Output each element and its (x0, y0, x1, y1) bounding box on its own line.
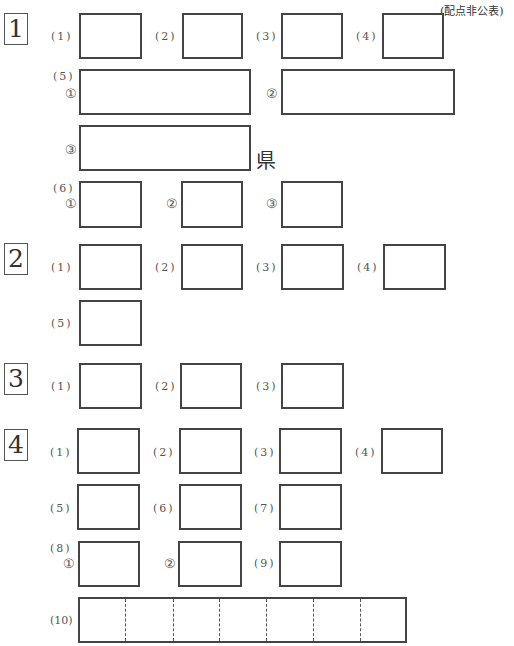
label-2-4: (4) (357, 261, 379, 274)
label-4-2: (2) (153, 446, 175, 459)
cell-divider (360, 599, 361, 641)
label-4-1: (1) (50, 446, 72, 459)
label-1-5: (5) (53, 70, 75, 83)
score-note: (配点非公表) (440, 2, 504, 18)
label-4-4: (4) (355, 446, 377, 459)
answer-box-4-8-1[interactable] (78, 541, 140, 587)
answer-box-1-3[interactable] (281, 13, 343, 59)
label-1-6-3: ③ (266, 196, 278, 211)
cell-divider (125, 599, 126, 641)
label-3-3: (3) (256, 380, 278, 393)
answer-box-4-1[interactable] (77, 428, 140, 474)
answer-box-3-3[interactable] (281, 363, 344, 409)
answer-box-1-6-2[interactable] (181, 181, 243, 228)
answer-box-1-2[interactable] (182, 13, 243, 59)
answer-box-4-3[interactable] (279, 428, 342, 474)
answer-box-1-6-3[interactable] (281, 181, 343, 228)
answer-box-4-9[interactable] (279, 541, 342, 587)
label-4-3: (3) (254, 446, 276, 459)
answer-grid-4-10[interactable] (78, 597, 407, 643)
label-4-8-2: ② (164, 556, 176, 571)
label-2-1: (1) (51, 261, 73, 274)
answer-box-4-2[interactable] (179, 428, 242, 474)
answer-box-1-1[interactable] (79, 13, 142, 59)
prefecture-suffix: 県 (256, 145, 276, 174)
answer-box-2-4[interactable] (383, 244, 446, 290)
answer-box-4-4[interactable] (381, 428, 443, 474)
label-4-5: (5) (50, 502, 72, 515)
label-2-2: (2) (155, 261, 177, 274)
section-number-3: 3 (4, 363, 28, 395)
label-2-3: (3) (256, 261, 278, 274)
label-1-5-2: ② (266, 86, 278, 101)
label-2-5: (5) (51, 317, 73, 330)
label-1-1: (1) (51, 30, 73, 43)
answer-box-4-8-2[interactable] (178, 541, 242, 587)
label-1-6-1: ① (65, 196, 77, 211)
section-number-2: 2 (4, 243, 28, 275)
answer-box-4-7[interactable] (279, 484, 342, 530)
answer-box-1-4[interactable] (382, 13, 444, 59)
cell-divider (313, 599, 314, 641)
answer-box-1-5-3[interactable] (79, 125, 251, 171)
label-4-7: (7) (254, 502, 276, 515)
answer-box-3-2[interactable] (180, 363, 242, 409)
label-4-6: (6) (153, 502, 175, 515)
answer-box-2-2[interactable] (181, 244, 243, 290)
section-number-1: 1 (4, 13, 28, 45)
answer-box-2-3[interactable] (281, 244, 344, 290)
answer-box-1-5-2[interactable] (281, 69, 455, 115)
label-3-2: (2) (155, 380, 177, 393)
answer-box-4-6[interactable] (179, 484, 242, 530)
label-4-9: (9) (254, 557, 276, 570)
label-3-1: (1) (51, 380, 73, 393)
answer-box-2-5[interactable] (79, 300, 142, 346)
label-1-5-1: ① (65, 86, 77, 101)
label-1-5-3: ③ (65, 142, 77, 157)
cell-divider (173, 599, 174, 641)
label-1-6-2: ② (166, 196, 178, 211)
answer-box-1-6-1[interactable] (79, 181, 142, 228)
answer-box-4-5[interactable] (77, 484, 140, 530)
section-number-4: 4 (4, 429, 28, 461)
cell-divider (266, 599, 267, 641)
label-4-8: (8) (50, 542, 72, 555)
answer-box-3-1[interactable] (79, 363, 142, 409)
answer-box-1-5-1[interactable] (79, 69, 251, 115)
label-4-10: (10) (50, 614, 73, 627)
answer-box-2-1[interactable] (79, 244, 142, 290)
label-1-4: (4) (356, 30, 378, 43)
label-1-6: (6) (53, 182, 75, 195)
cell-divider (219, 599, 220, 641)
label-1-3: (3) (256, 30, 278, 43)
label-4-8-1: ① (63, 556, 75, 571)
label-1-2: (2) (155, 30, 177, 43)
